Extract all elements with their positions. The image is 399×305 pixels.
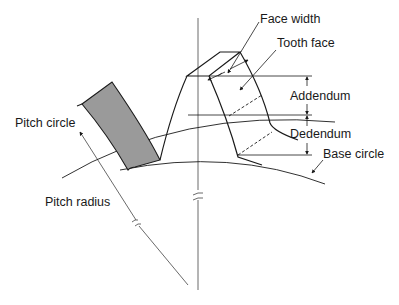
tooth-face-leader (240, 50, 276, 90)
gear-tooth-diagram: Face width Tooth face Addendum Dedendum … (0, 0, 399, 305)
label-tooth-face: Tooth face (277, 37, 335, 50)
label-pitch-circle: Pitch circle (15, 117, 75, 130)
label-base-circle: Base circle (323, 148, 384, 161)
base-circle-arc (120, 162, 325, 184)
shaded-tooth (82, 82, 160, 170)
label-addendum: Addendum (290, 90, 350, 103)
base-circle-leader (312, 160, 323, 173)
label-face-width: Face width (260, 13, 320, 26)
reference-lines (188, 76, 312, 155)
center-line (193, 18, 203, 290)
label-dedendum: Dedendum (290, 128, 351, 141)
main-tooth (160, 52, 298, 165)
label-pitch-radius: Pitch radius (45, 196, 110, 209)
